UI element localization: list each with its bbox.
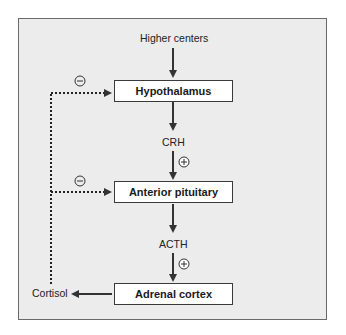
stimulation-icon [179, 157, 189, 167]
stimulation-icon [179, 259, 189, 269]
hormone-acth-label: ACTH [159, 238, 188, 250]
node-anterior-pituitary: Anterior pituitary [114, 181, 233, 203]
node-label: Anterior pituitary [129, 186, 218, 198]
cortisol-label: Cortisol [32, 287, 68, 299]
node-label: Hypothalamus [136, 85, 212, 97]
node-hypothalamus: Hypothalamus [114, 80, 233, 102]
inhibition-icon [75, 76, 85, 86]
higher-centers-label: Higher centers [140, 32, 208, 44]
node-adrenal-cortex: Adrenal cortex [114, 283, 233, 305]
inhibition-icon [75, 176, 85, 186]
hormone-crh-label: CRH [162, 136, 185, 148]
node-label: Adrenal cortex [135, 288, 212, 300]
